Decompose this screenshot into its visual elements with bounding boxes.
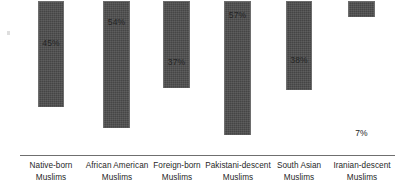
category-label-line1: African American [86, 161, 149, 170]
category-label-line1: Native-born [30, 161, 73, 170]
category-label-line2: Muslims [19, 172, 83, 184]
x-axis-line [20, 155, 395, 156]
bar-value-label: 54% [108, 17, 125, 27]
bar-group: 38% [286, 1, 312, 156]
category-label-line2: Muslims [201, 172, 275, 184]
category-label-line2: Muslims [329, 172, 395, 184]
bar-rect [163, 1, 190, 88]
category-label: African AmericanMuslims [82, 160, 152, 183]
category-label-line1: Iranian-descent [333, 161, 390, 170]
x-axis-category-labels: Native-bornMuslimsAfrican AmericanMuslim… [0, 160, 410, 189]
bar-rect [348, 1, 375, 17]
category-label-line1: South Asian [277, 161, 321, 170]
bar-group: 37% [163, 1, 190, 156]
category-label: Native-bornMuslims [19, 160, 83, 183]
bar-rect [286, 1, 312, 90]
bar-group: 57% [224, 1, 251, 156]
category-label: Foreign-bornMuslims [146, 160, 208, 183]
category-label-line1: Foreign-born [153, 161, 200, 170]
bar-value-label: 37% [168, 57, 185, 67]
category-label: Iranian-descentMuslims [329, 160, 395, 183]
category-label-line2: Muslims [269, 172, 329, 184]
bar-group: 45% [38, 1, 64, 156]
category-label: South AsianMuslims [269, 160, 329, 183]
category-label-line1: Pakistani-descent [205, 161, 270, 170]
bar-group: 54% [103, 1, 130, 156]
bar-group: 7% [348, 1, 375, 156]
category-label-line2: Muslims [82, 172, 152, 184]
bar-value-label: 7% [355, 128, 368, 138]
bar-value-label: 38% [290, 55, 307, 65]
bar-rect [38, 1, 64, 107]
bar-rect [224, 1, 251, 135]
bar-chart: 45%54%37%57%38%7% Native-bornMuslimsAfri… [0, 0, 410, 189]
plot-area: 45%54%37%57%38%7% [0, 0, 410, 156]
category-label: Pakistani-descentMuslims [201, 160, 275, 183]
bar-value-label: 45% [42, 38, 59, 48]
category-label-line2: Muslims [146, 172, 208, 184]
bar-value-label: 57% [229, 10, 246, 20]
